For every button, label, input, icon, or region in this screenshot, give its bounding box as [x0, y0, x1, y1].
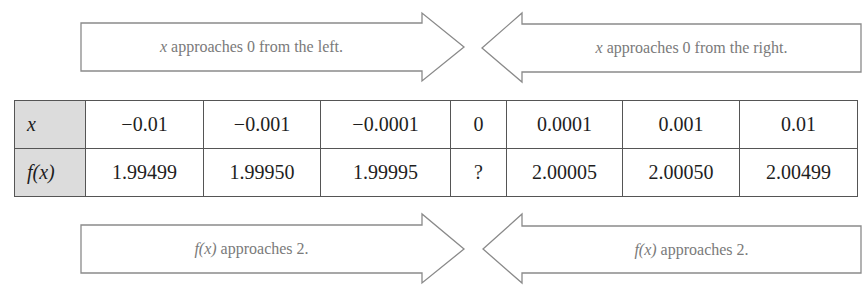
table-cell: −0.01 — [86, 101, 204, 149]
label-text: approaches 2. — [217, 240, 309, 257]
table-cell: 0 — [451, 101, 507, 149]
top-right-arrow-label: x approaches 0 from the right. — [522, 38, 861, 58]
table-cell: 0.0001 — [507, 101, 623, 149]
top-left-arrow-label: x approaches 0 from the left. — [81, 37, 422, 57]
table-cell: −0.0001 — [321, 101, 451, 149]
label-text: approaches 0 from the left. — [167, 38, 343, 55]
row-header-fx: f(x) — [15, 149, 86, 197]
row-header-x: x — [15, 101, 86, 149]
table-cell: 2.00050 — [623, 149, 740, 197]
table-cell: 0.01 — [740, 101, 858, 149]
variable: f(x) — [634, 241, 656, 258]
table-cell: 1.99950 — [204, 149, 321, 197]
table-cell: 1.99499 — [86, 149, 204, 197]
values-table: x −0.01 −0.001 −0.0001 0 0.0001 0.001 0.… — [14, 100, 858, 197]
table-cell: −0.001 — [204, 101, 321, 149]
label-text: approaches 2. — [657, 241, 749, 258]
table-cell: 0.001 — [623, 101, 740, 149]
table-cell: ? — [451, 149, 507, 197]
bottom-left-arrow-label: f(x) approaches 2. — [81, 239, 422, 259]
table-cell: 2.00499 — [740, 149, 858, 197]
table-row-x: x −0.01 −0.001 −0.0001 0 0.0001 0.001 0.… — [15, 101, 858, 149]
variable: x — [160, 38, 167, 55]
table-row-fx: f(x) 1.99499 1.99950 1.99995 ? 2.00005 2… — [15, 149, 858, 197]
table-cell: 2.00005 — [507, 149, 623, 197]
variable: f(x) — [194, 240, 216, 257]
bottom-right-arrow-label: f(x) approaches 2. — [522, 240, 861, 260]
label-text: approaches 0 from the right. — [603, 39, 788, 56]
variable: x — [596, 39, 603, 56]
table-cell: 1.99995 — [321, 149, 451, 197]
